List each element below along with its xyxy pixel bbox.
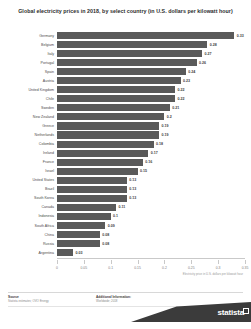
bar[interactable] — [57, 168, 138, 175]
bar-category-label: Germany — [0, 34, 57, 38]
bar-value-label: 0.19 — [161, 124, 168, 128]
bar-value-label: 0.22 — [178, 88, 185, 92]
bar[interactable] — [57, 195, 127, 202]
bar[interactable] — [57, 68, 186, 75]
bar[interactable] — [57, 113, 164, 120]
bar-category-label: Portugal — [0, 61, 57, 65]
bar-category-label: United Kingdom — [0, 88, 57, 92]
bar-value-label: 0.13 — [129, 187, 136, 191]
bar-row: Argentina0.03 — [0, 248, 251, 257]
bar-category-label: Russia — [0, 242, 57, 246]
axis-tick — [218, 260, 219, 264]
bar-wrapper: 0.28 — [57, 40, 251, 49]
bar-category-label: United States — [0, 178, 57, 182]
bar-wrapper: 0.08 — [57, 239, 251, 248]
bar-category-label: New Zealand — [0, 115, 57, 119]
bar-value-label: 0.28 — [210, 43, 217, 47]
bar-category-label: France — [0, 160, 57, 164]
bar-wrapper: 0.26 — [57, 58, 251, 67]
bar-category-label: Spain — [0, 70, 57, 74]
bar-wrapper: 0.19 — [57, 131, 251, 140]
bar[interactable] — [57, 32, 234, 39]
bar-category-label: China — [0, 233, 57, 237]
axis-tick-label: 0.15 — [134, 266, 141, 270]
axis-baseline — [57, 258, 245, 259]
bar[interactable] — [57, 50, 202, 57]
bar-row: South Africa0.09 — [0, 221, 251, 230]
bar-wrapper: 0.09 — [57, 221, 251, 230]
bar[interactable] — [57, 131, 159, 138]
bar-category-label: Ireland — [0, 151, 57, 155]
logo-text: statista — [218, 308, 244, 317]
bar-row: New Zealand0.2 — [0, 112, 251, 121]
bar[interactable] — [57, 177, 127, 184]
bar-category-label: Sweden — [0, 106, 57, 110]
bar[interactable] — [57, 249, 73, 256]
bar-wrapper: 0.1 — [57, 212, 251, 221]
bar-value-label: 0.2 — [167, 115, 172, 119]
bar[interactable] — [57, 240, 100, 247]
bar[interactable] — [57, 231, 100, 238]
chart-footer: Source Statista estimates; OVO Energy Ad… — [0, 292, 251, 329]
bar-row: United Kingdom0.22 — [0, 85, 251, 94]
bar-value-label: 0.09 — [108, 224, 115, 228]
bar-row: Russia0.08 — [0, 239, 251, 248]
bar-row: China0.08 — [0, 230, 251, 239]
bar-value-label: 0.16 — [145, 160, 152, 164]
bar-category-label: South Korea — [0, 196, 57, 200]
bar-wrapper: 0.16 — [57, 158, 251, 167]
bar[interactable] — [57, 213, 111, 220]
bar-category-label: Belgium — [0, 43, 57, 47]
bar-row: Germany0.33 — [0, 31, 251, 40]
axis-tick-label: 0.05 — [81, 266, 88, 270]
bar-row: Netherlands0.19 — [0, 131, 251, 140]
bar-category-label: Austria — [0, 79, 57, 83]
bar[interactable] — [57, 222, 105, 229]
bar-row: Greece0.19 — [0, 121, 251, 130]
bar-wrapper: 0.15 — [57, 167, 251, 176]
bar-value-label: 0.23 — [183, 79, 190, 83]
bar[interactable] — [57, 150, 148, 157]
bar[interactable] — [57, 86, 175, 93]
bar-row: South Korea0.13 — [0, 194, 251, 203]
bar-category-label: Brazil — [0, 187, 57, 191]
bar-category-label: Netherlands — [0, 133, 57, 137]
axis-tick — [57, 260, 58, 264]
source-body: Statista estimates; OVO Energy — [8, 300, 83, 304]
bar-value-label: 0.13 — [129, 178, 136, 182]
bar-wrapper: 0.13 — [57, 176, 251, 185]
bar[interactable] — [57, 122, 159, 129]
bar-category-label: South Africa — [0, 224, 57, 228]
bar-row: Israel0.15 — [0, 167, 251, 176]
bar-category-label: Italy — [0, 52, 57, 56]
logo-mark-icon — [243, 308, 249, 314]
bar-value-label: 0.03 — [76, 251, 83, 255]
bar-category-label: Chile — [0, 97, 57, 101]
bar-category-label: Israel — [0, 169, 57, 173]
bar-wrapper: 0.27 — [57, 49, 251, 58]
bar-row: Portugal0.26 — [0, 58, 251, 67]
axis-tick — [138, 260, 139, 264]
bar[interactable] — [57, 141, 154, 148]
axis-tick-label: 0 — [56, 266, 58, 270]
bar-value-label: 0.11 — [118, 205, 125, 209]
bar-wrapper: 0.11 — [57, 203, 251, 212]
bar-row: Italy0.27 — [0, 49, 251, 58]
axis-tick-label: 0.25 — [188, 266, 195, 270]
bar-value-label: 0.33 — [237, 34, 244, 38]
bar[interactable] — [57, 204, 116, 211]
bar[interactable] — [57, 104, 170, 111]
bar[interactable] — [57, 186, 127, 193]
bar[interactable] — [57, 41, 207, 48]
axis-tick — [245, 260, 246, 264]
bar-row: Canada0.11 — [0, 203, 251, 212]
bar-value-label: 0.21 — [172, 106, 179, 110]
bar[interactable] — [57, 159, 143, 166]
axis-tick — [111, 260, 112, 264]
bar[interactable] — [57, 95, 175, 102]
bar[interactable] — [57, 59, 197, 66]
statista-logo[interactable]: statista — [131, 302, 251, 322]
bar[interactable] — [57, 77, 181, 84]
bar-rows: Germany0.33Belgium0.28Italy0.27Portugal0… — [0, 31, 251, 257]
bar-value-label: 0.19 — [161, 133, 168, 137]
